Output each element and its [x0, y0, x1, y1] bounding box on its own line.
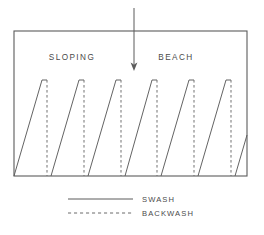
swash-tooth	[14, 80, 47, 176]
swash-tooth	[125, 80, 157, 176]
diagram-root: SLOPING BEACH SWASH BACKWASH	[0, 0, 264, 235]
swash-series	[14, 80, 247, 176]
swash-tooth	[88, 80, 121, 176]
swash-tooth-partial	[235, 135, 247, 176]
label-sloping: SLOPING	[49, 53, 96, 62]
swash-tooth	[198, 80, 231, 176]
beach-swash-diagram: SLOPING BEACH SWASH BACKWASH	[0, 0, 264, 235]
legend-label-backwash: BACKWASH	[142, 209, 194, 218]
label-beach: BEACH	[158, 53, 193, 62]
legend: SWASH BACKWASH	[68, 195, 194, 218]
down-arrow-icon	[131, 8, 138, 71]
swash-tooth	[161, 80, 194, 176]
swash-tooth	[51, 80, 84, 176]
legend-label-swash: SWASH	[142, 195, 175, 204]
